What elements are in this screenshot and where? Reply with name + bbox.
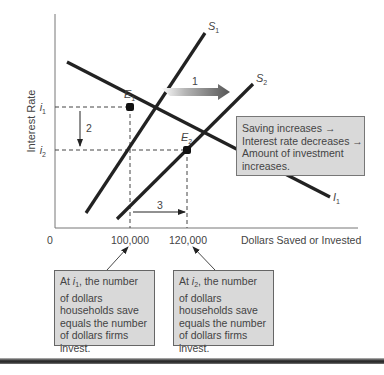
callout-prefix: At	[60, 275, 73, 287]
quantity-rise-arrow: 3	[133, 199, 185, 212]
label-e2: E2	[181, 131, 192, 145]
x-tick-120000: 120,000	[169, 234, 207, 246]
x-tick-100000: 100,000	[111, 234, 149, 246]
callout-i2: At i2, the number of dollars households …	[173, 270, 274, 346]
y-tick-i1: i1	[40, 101, 46, 115]
rate-drop-label: 2	[86, 122, 92, 134]
origin-label: 0	[47, 234, 53, 246]
bottom-divider	[0, 358, 384, 364]
label-e1: E1	[124, 88, 135, 102]
equilibrium-point-e2	[183, 146, 191, 154]
explanation-box: Saving increases → Interest rate decreas…	[236, 116, 365, 176]
explanation-line: Interest rate decreases →	[242, 135, 359, 148]
label-s1: S1	[208, 20, 219, 34]
quantity-rise-label: 3	[157, 199, 163, 211]
label-s2: S2	[256, 72, 267, 86]
y-axis-label: Interest Rate	[25, 90, 37, 153]
callout-prefix: At	[179, 275, 192, 287]
explanation-line: Amount of investment	[242, 147, 359, 160]
explanation-line: increases.	[242, 160, 359, 173]
loanable-funds-diagram: Interest Rate Dollars Saved or Invested …	[0, 0, 384, 375]
shift-arrow: 1	[161, 75, 230, 100]
x-axis-label: Dollars Saved or Invested	[241, 234, 361, 246]
callout-2-pointer	[193, 247, 215, 270]
shift-arrow-label: 1	[192, 75, 198, 87]
explanation-line: Saving increases →	[242, 122, 359, 135]
y-tick-i2: i2	[40, 144, 46, 158]
label-i1: I1	[333, 191, 340, 205]
callout-i1: At i1, the number of dollars households …	[54, 270, 155, 346]
callout-1-pointer	[107, 247, 128, 270]
rate-drop-arrow: 2	[80, 111, 92, 146]
equilibrium-point-e1	[126, 103, 134, 111]
